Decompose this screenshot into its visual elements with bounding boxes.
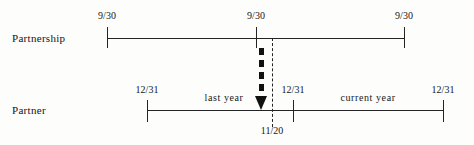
dashed-down-arrow-head-icon: [255, 96, 267, 110]
partner-span-current-year: current year: [340, 93, 395, 103]
partner-tick-start: [147, 100, 148, 122]
partner-date-start: 12/31: [136, 85, 159, 95]
partner-span-last-year: last year: [205, 93, 244, 103]
partner-tick-end: [443, 100, 444, 122]
row-label-partnership: Partnership: [12, 32, 65, 44]
row-label-partner: Partner: [12, 104, 46, 116]
partner-date-end: 12/31: [432, 85, 455, 95]
partnership-tick-start: [107, 27, 108, 48]
partner-axis-line: [147, 110, 443, 111]
timeline-diagram: Partnership Partner 9/30 9/30 9/30 12/31…: [0, 0, 474, 145]
dashed-connector-line: [272, 38, 273, 127]
dashed-down-arrow-shaft: [259, 48, 264, 96]
partnership-date-start: 9/30: [98, 11, 116, 21]
partnership-tick-middle: [256, 27, 257, 48]
partner-date-middle: 12/31: [282, 85, 305, 95]
partnership-tick-end: [404, 27, 405, 48]
partnership-date-end: 9/30: [395, 11, 413, 21]
event-date-label: 11/20: [261, 126, 283, 136]
partner-tick-middle: [293, 100, 294, 122]
partnership-date-middle: 9/30: [247, 11, 265, 21]
